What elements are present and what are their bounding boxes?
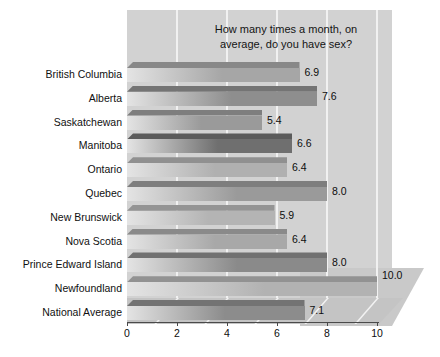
bar-value-label: 7.1	[310, 304, 325, 316]
bar-value-label: 10.0	[382, 269, 402, 281]
bar-front-face	[127, 211, 275, 225]
bar-value-label: 6.9	[305, 66, 320, 78]
bar-value-label: 8.0	[332, 185, 347, 197]
bar-front-face	[127, 187, 327, 201]
bar-front-face	[127, 92, 317, 106]
x-tick-label-0: 0	[124, 327, 130, 339]
x-tick-label-4: 4	[224, 327, 230, 339]
bar-front-face	[127, 306, 305, 320]
x-tick-label-2: 2	[174, 327, 180, 339]
bar-value-label: 5.9	[280, 209, 295, 221]
bar-front-face	[127, 235, 287, 249]
bar-front-face	[127, 139, 292, 153]
bar-front-face	[127, 116, 262, 130]
x-tick-label-6: 6	[274, 327, 280, 339]
x-tick-0	[127, 322, 128, 326]
bar-value-label: 5.4	[267, 114, 282, 126]
x-tick-label-10: 10	[371, 327, 383, 339]
bar-value-label: 6.6	[297, 137, 312, 149]
bar-front-face	[127, 163, 287, 177]
bar-front-face	[127, 282, 377, 296]
bar-front-face	[127, 68, 300, 82]
x-tick-2	[177, 322, 178, 326]
x-tick-8	[327, 322, 328, 326]
bar-series: 6.97.65.46.66.48.05.96.48.010.07.1	[0, 0, 440, 357]
bar-value-label: 6.4	[292, 233, 307, 245]
x-tick-label-8: 8	[324, 327, 330, 339]
bar-value-label: 8.0	[332, 256, 347, 268]
bar-value-label: 7.6	[322, 90, 337, 102]
x-axis-line	[127, 322, 379, 323]
bar-chart: How many times a month, on average, do y…	[0, 0, 440, 357]
x-tick-10	[377, 322, 378, 326]
x-tick-6	[277, 322, 278, 326]
bar-value-label: 6.4	[292, 161, 307, 173]
x-tick-4	[227, 322, 228, 326]
bar-front-face	[127, 258, 327, 272]
